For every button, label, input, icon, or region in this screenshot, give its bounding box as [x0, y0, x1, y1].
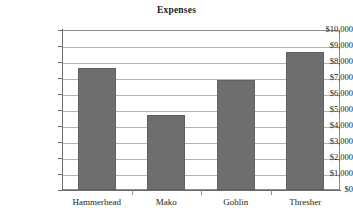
y-axis-tick-mark [58, 126, 62, 127]
expenses-bar-chart: Expenses $10,000$9,000$8,000$7,000$6,000… [0, 0, 353, 223]
y-axis-tick-mark [58, 110, 62, 111]
x-axis-tick-label: Mako [132, 197, 202, 208]
y-axis-line [62, 29, 63, 191]
bar [217, 80, 255, 190]
bar [147, 115, 185, 190]
y-axis-tick-label: $10,000 [295, 25, 353, 34]
y-axis-tick-mark [58, 190, 62, 191]
bar [78, 68, 116, 190]
y-axis-tick-mark [58, 78, 62, 79]
y-axis-tick-mark [58, 62, 62, 63]
x-axis-tick-label: Thresher [271, 197, 341, 208]
y-axis-tick-label: $9,000 [295, 41, 353, 50]
bar [286, 52, 324, 190]
chart-title: Expenses [0, 5, 353, 15]
y-axis-tick-mark [58, 94, 62, 95]
x-axis-tick-mark [132, 190, 133, 195]
y-axis-tick-mark [58, 30, 62, 31]
x-axis-tick-mark [201, 190, 202, 195]
y-axis-tick-mark [58, 174, 62, 175]
x-axis-tick-mark [271, 190, 272, 195]
x-axis-tick-label: Goblin [201, 197, 271, 208]
x-axis-tick-label: Hammerhead [62, 197, 132, 208]
y-axis-tick-mark [58, 142, 62, 143]
y-axis-tick-mark [58, 46, 62, 47]
y-axis-tick-mark [58, 158, 62, 159]
